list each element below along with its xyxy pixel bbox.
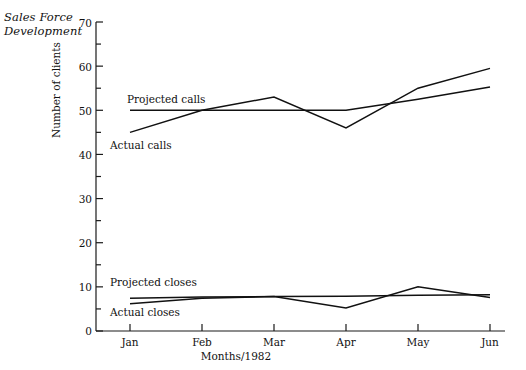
data-series-lines (130, 68, 490, 308)
y-axis-ticks (96, 22, 103, 331)
axis-lines (96, 22, 505, 331)
plot-area (0, 0, 526, 370)
figure-canvas: Sales Force Development Number of client… (0, 0, 526, 370)
x-axis-ticks (130, 324, 490, 331)
